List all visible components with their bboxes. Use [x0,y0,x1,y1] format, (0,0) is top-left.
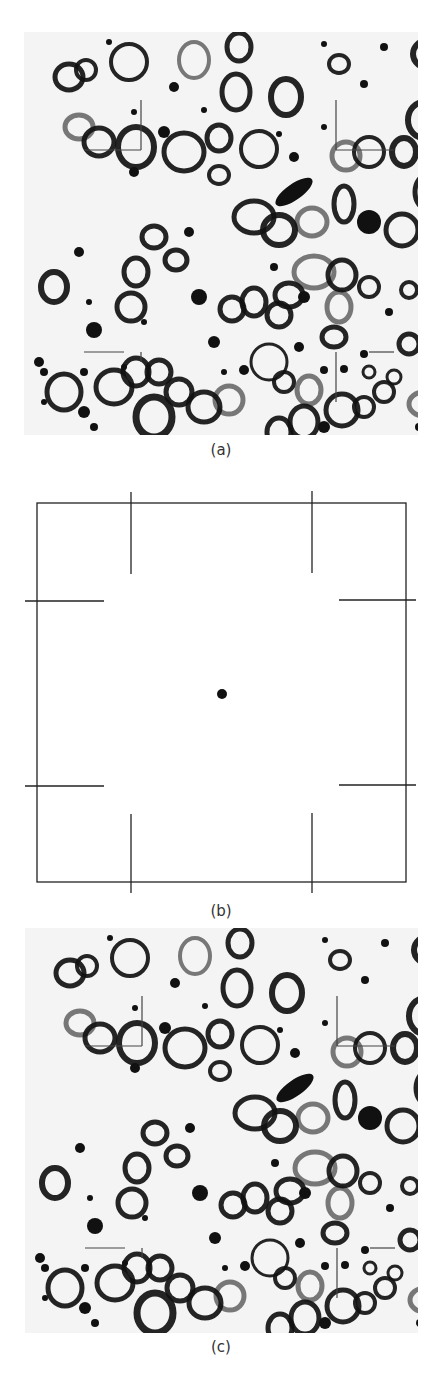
particle-ring [268,1314,292,1333]
particle-ring [392,138,416,166]
particle-dot [91,1319,99,1327]
particle-ring [386,214,418,246]
particle-ring [408,102,418,138]
particle-ring [388,1266,402,1280]
particle-ring [210,1062,230,1080]
particle-dot [240,1261,250,1271]
particle-ring [208,1021,232,1047]
particle-dot [222,1265,228,1271]
particle-ring [364,1262,376,1274]
particle-dot [319,1317,331,1329]
particle-ring [359,277,379,297]
particle-ring [322,327,346,347]
particle-dot [385,308,393,316]
particle-dot [41,1264,49,1272]
particle-ring [298,1104,328,1132]
particle-dot [159,1022,171,1034]
particle-dot [357,210,381,234]
particle-dot [271,1159,279,1167]
particle-ring [401,282,417,298]
smear-blob [272,1069,317,1107]
particle-dot [40,368,48,376]
particle-dot [360,80,368,88]
particle-dot [74,247,84,257]
particle-ring [413,40,418,68]
particle-ring [375,1278,395,1298]
particle-ring [409,392,418,416]
particle-ring [220,297,244,321]
particle-ring [393,1034,417,1062]
caption-a: (a) [0,441,442,459]
particle-ring [223,970,251,1006]
particle-ring [271,79,301,115]
particle-ring [96,370,132,404]
particle-ring [136,397,172,435]
particle-ring [414,936,418,964]
particle-dot [321,1262,329,1270]
particle-ring [85,1024,115,1052]
particle-ring [297,376,321,404]
particle-dot [361,976,369,984]
particle-dot [86,299,92,305]
particle-ring [241,131,277,167]
particle-dot [318,421,330,433]
particle-ring [328,1188,352,1218]
particle-ring [327,292,351,322]
particle-dot [277,1027,283,1033]
particle-dot [141,319,147,325]
particle-ring [251,344,287,380]
particle-ring [252,1240,288,1276]
particle-ring [66,1011,94,1035]
caption-b: (b) [0,902,442,920]
particle-dot [121,364,127,370]
particle-ring [112,940,148,976]
particle-ring [400,1230,418,1250]
particle-ring [111,44,147,80]
particle-dot [276,131,282,137]
particle-dot [42,1295,48,1301]
particle-ring [363,366,375,378]
particle-dot [321,41,327,47]
particle-ring [387,370,401,384]
particle-ring [97,1266,133,1300]
particle-ring [143,1122,167,1144]
panel-a-micrograph [24,32,418,435]
particle-ring [297,208,327,236]
caption-c: (c) [0,1338,442,1356]
particle-dot [79,1302,91,1314]
particle-dot [270,263,278,271]
particle-field-c [25,928,418,1333]
alignment-schematic [0,480,442,900]
particle-dot [386,1204,394,1212]
particle-field-a [24,32,418,435]
particle-ring [268,1199,292,1223]
particle-ring [267,418,291,435]
particle-dot [86,322,102,338]
particle-ring [118,127,154,167]
particle-ring [142,226,166,248]
particle-dot [340,365,348,373]
particle-dot [322,1020,328,1026]
particle-dot [87,1195,93,1201]
particle-dot [295,1238,305,1248]
particle-dot [322,937,328,943]
particle-ring [360,1173,380,1193]
particle-ring [164,133,204,171]
particle-ring [165,1029,205,1067]
particle-ring [410,1288,418,1312]
particle-dot [415,423,418,431]
particle-dot [169,82,179,92]
particle-ring [416,1070,418,1106]
particle-dot [299,1187,311,1199]
particle-dot [298,291,310,303]
particle-ring [272,975,302,1011]
particle-ring [117,293,145,321]
particle-ring [399,334,418,354]
particle-dot [75,1143,85,1153]
particle-ring [41,272,67,302]
particle-dot [80,368,88,376]
particle-dot [90,423,98,431]
particle-ring [42,1168,68,1198]
panel-b-schematic [0,480,442,900]
particle-dot [289,152,299,162]
